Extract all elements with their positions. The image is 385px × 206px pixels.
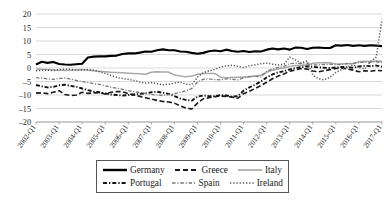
chart-root: 20151050–5–10–15–20 2002-Q12003-Q12004-Q… — [0, 0, 385, 206]
x-axis-tick-label: 2010-Q1 — [200, 123, 223, 148]
x-axis-tick-label: 2003-Q1 — [38, 123, 61, 148]
legend-item-germany[interactable]: Germany — [102, 165, 165, 175]
y-axis-tick-label: 20 — [23, 10, 31, 19]
legend-label: Spain — [199, 178, 220, 188]
legend-swatch-greece — [174, 165, 200, 175]
x-axis-labels: 2002-Q12003-Q12004-Q12005-Q12006-Q12007-… — [15, 123, 384, 148]
y-axis-tick-label: –5 — [22, 78, 31, 87]
legend-swatch-ireland — [229, 178, 255, 188]
x-axis-tick-label: 2016-Q1 — [338, 123, 361, 148]
legend-label: Italy — [265, 165, 282, 175]
x-axis-tick-label: 2006-Q1 — [107, 123, 130, 148]
legend-row: GermanyGreeceItaly — [102, 163, 283, 176]
x-axis-tick-label: 2011-Q1 — [223, 123, 245, 148]
legend-row: PortugalSpainIreland — [102, 176, 283, 189]
y-axis-tick-label: –15 — [18, 105, 31, 114]
x-axis-tick-label: 2007-Q1 — [131, 123, 154, 148]
y-axis-tick-label: 10 — [23, 37, 31, 46]
legend-swatch-germany — [102, 165, 128, 175]
legend-item-ireland[interactable]: Ireland — [229, 178, 283, 188]
x-axis-tick-label: 2005-Q1 — [84, 123, 107, 148]
legend-label: Greece — [202, 165, 228, 175]
x-axis-tick-label: 2015-Q1 — [315, 123, 338, 148]
chart-plot-area: 20151050–5–10–15–20 2002-Q12003-Q12004-Q… — [0, 0, 385, 148]
legend-label: Germany — [130, 165, 165, 175]
y-axis-tick-label: 15 — [23, 24, 31, 33]
x-axis-tick-label: 2014-Q1 — [292, 123, 315, 148]
y-axis-tick-label: –10 — [18, 91, 31, 100]
x-axis-tick-label: 2012-Q1 — [246, 123, 269, 148]
x-axis-tick-label: 2008-Q1 — [154, 123, 177, 148]
legend-item-spain[interactable]: Spain — [171, 178, 220, 188]
series-line-greece — [36, 68, 382, 109]
series-line-germany — [36, 45, 382, 65]
legend-item-greece[interactable]: Greece — [174, 165, 228, 175]
legend-swatch-portugal — [102, 178, 128, 188]
y-axis-tick-label: 0 — [27, 64, 31, 73]
x-axis-tick-label: 2017-Q1 — [361, 123, 384, 148]
gridlines — [36, 14, 382, 122]
x-axis-tick-label: 2009-Q1 — [177, 123, 200, 148]
x-axis-tick-label: 2013-Q1 — [269, 123, 292, 148]
legend-box: GermanyGreeceItalyPortugalSpainIreland — [96, 160, 289, 193]
legend: GermanyGreeceItalyPortugalSpainIreland — [0, 160, 385, 193]
y-axis-labels: 20151050–5–10–15–20 — [18, 10, 31, 127]
legend-swatch-italy — [237, 165, 263, 175]
legend-label: Portugal — [130, 178, 162, 188]
legend-item-italy[interactable]: Italy — [237, 165, 282, 175]
legend-label: Ireland — [257, 178, 283, 188]
legend-item-portugal[interactable]: Portugal — [102, 178, 162, 188]
x-axis-tick-label: 2004-Q1 — [61, 123, 84, 148]
y-axis-tick-label: 5 — [27, 51, 31, 60]
data-series-group — [36, 19, 382, 109]
legend-swatch-spain — [171, 178, 197, 188]
line-chart-svg: 20151050–5–10–15–20 2002-Q12003-Q12004-Q… — [0, 0, 385, 148]
